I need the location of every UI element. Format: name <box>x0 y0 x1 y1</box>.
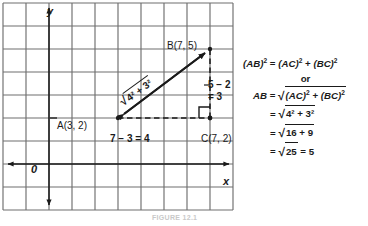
eq3-radicand: 4² + 3² <box>285 105 315 122</box>
eq1-ab: (AB)2 <box>243 58 267 69</box>
eq3-radical: √4² + 3² <box>278 105 315 124</box>
point-b-label: B(7, 5) <box>167 41 197 52</box>
leg-vertical-label: 5 − 2 = 3 <box>208 79 231 102</box>
geometry-figure: y x 0 A(3, 2) B(7, 5) C(7, 2) 7 − 3 = 4 … <box>0 0 368 226</box>
eq3-equals: = <box>270 108 276 119</box>
eq4-radical: √16 + 9 <box>278 124 314 143</box>
origin-label: 0 <box>31 164 37 176</box>
eq2-bc: (BC) <box>321 90 341 101</box>
point-c-dot <box>208 116 213 121</box>
eq1-ab-text: (AB) <box>243 58 263 69</box>
point-c-label: C(7, 2) <box>201 134 232 145</box>
axis-y-label: y <box>47 6 53 18</box>
eq5-result: 5 <box>309 146 314 157</box>
leg-vertical-label-line1: 5 − 2 <box>208 79 231 91</box>
equation-derivation: (AB)2 = (AC)2 + (BC)2 or AB = √(AC)2 + (… <box>243 56 368 161</box>
eq1-ac: (AC)2 <box>278 58 302 69</box>
eq1-bc-text: (BC) <box>313 58 333 69</box>
figure-caption: FIGURE 12.1 <box>152 214 197 221</box>
eq2-radical: √(AC)2 + (BC)2 <box>278 86 346 105</box>
eq2-bc-exp: 2 <box>341 88 345 95</box>
eq1-ac-text: (AC) <box>278 58 298 69</box>
eq5-radicand: 25 <box>285 142 298 159</box>
eq4-radicand: 16 + 9 <box>285 124 314 141</box>
point-b-dot <box>208 47 212 51</box>
eq1-ac-exp: 2 <box>299 57 303 64</box>
equation-line-1: (AB)2 = (AC)2 + (BC)2 <box>243 56 368 71</box>
eq2-plus: + <box>312 90 318 101</box>
eq1-bc-exp: 2 <box>334 57 338 64</box>
leg-horizontal-label: 7 − 3 = 4 <box>110 134 149 145</box>
equation-line-5: = √25 = 5 <box>243 142 368 161</box>
eq2-ac-exp: 2 <box>306 88 310 95</box>
axis-x-label: x <box>223 176 229 188</box>
eq2-radicand: (AC)2 + (BC)2 <box>285 86 346 103</box>
eq2-ab: AB <box>253 90 267 101</box>
eq1-ab-exp: 2 <box>263 57 267 64</box>
eq5-radical: √25 <box>278 142 297 161</box>
eq5-equals-2: = <box>300 146 306 157</box>
eq1-plus: + <box>305 58 311 69</box>
eq2-equals: = <box>270 90 276 101</box>
equation-line-2: AB = √(AC)2 + (BC)2 <box>243 86 368 105</box>
eq2-ac: (AC) <box>286 90 306 101</box>
equation-or: or <box>243 71 368 86</box>
eq1-equals: = <box>270 58 276 69</box>
eq1-bc: (BC)2 <box>313 58 337 69</box>
point-a-label: A(3, 2) <box>57 121 87 132</box>
eq4-equals: = <box>270 127 276 138</box>
eq5-equals: = <box>270 146 276 157</box>
point-a-dot <box>116 116 120 120</box>
equation-line-4: = √16 + 9 <box>243 124 368 143</box>
equation-line-3: = √4² + 3² <box>243 105 368 124</box>
leg-vertical-label-line2: = 3 <box>208 91 231 103</box>
